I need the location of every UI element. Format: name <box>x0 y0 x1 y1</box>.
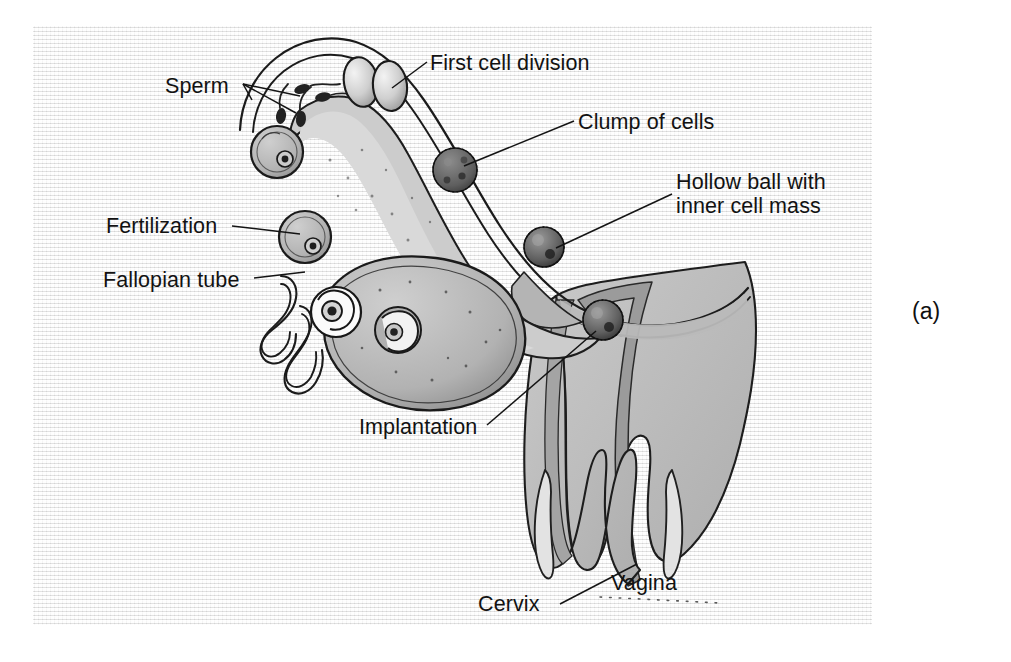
figure-root: Sperm First cell division Clump of cells… <box>0 0 1011 662</box>
ovary <box>324 256 525 410</box>
vaginal-canal-dotted-line <box>600 597 720 603</box>
leader-clump-of-cells <box>464 121 574 166</box>
label-hollow-ball-line1: Hollow ball with <box>676 170 826 194</box>
ovum-fertilized <box>251 126 303 178</box>
label-fallopian-tube: Fallopian tube <box>103 268 239 292</box>
fimbriae-coil-upper-b <box>262 284 291 357</box>
ovary-follicle-lateral <box>311 287 361 337</box>
panel-letter: (a) <box>912 298 940 325</box>
fimbriae-coil-upper <box>260 276 296 363</box>
morula-clump <box>433 148 477 192</box>
ovary-follicle-internal <box>375 307 421 353</box>
label-hollow-ball-line2: inner cell mass <box>676 194 821 218</box>
ovum-unfertilized <box>279 211 331 263</box>
blastocyst-lower <box>583 300 623 340</box>
leader-sperm-upper <box>243 84 300 96</box>
label-clump-of-cells: Clump of cells <box>578 110 714 134</box>
leader-hollow-ball <box>556 194 672 248</box>
label-fertilization: Fertilization <box>106 214 217 238</box>
label-cervix: Cervix <box>478 592 540 616</box>
label-implantation: Implantation <box>359 415 477 439</box>
anatomy-diagram <box>0 0 1011 662</box>
label-vagina: Vagina <box>611 571 677 595</box>
label-first-cell-division: First cell division <box>430 51 590 75</box>
label-sperm: Sperm <box>165 74 229 98</box>
leader-fallopian-tube <box>254 272 305 278</box>
